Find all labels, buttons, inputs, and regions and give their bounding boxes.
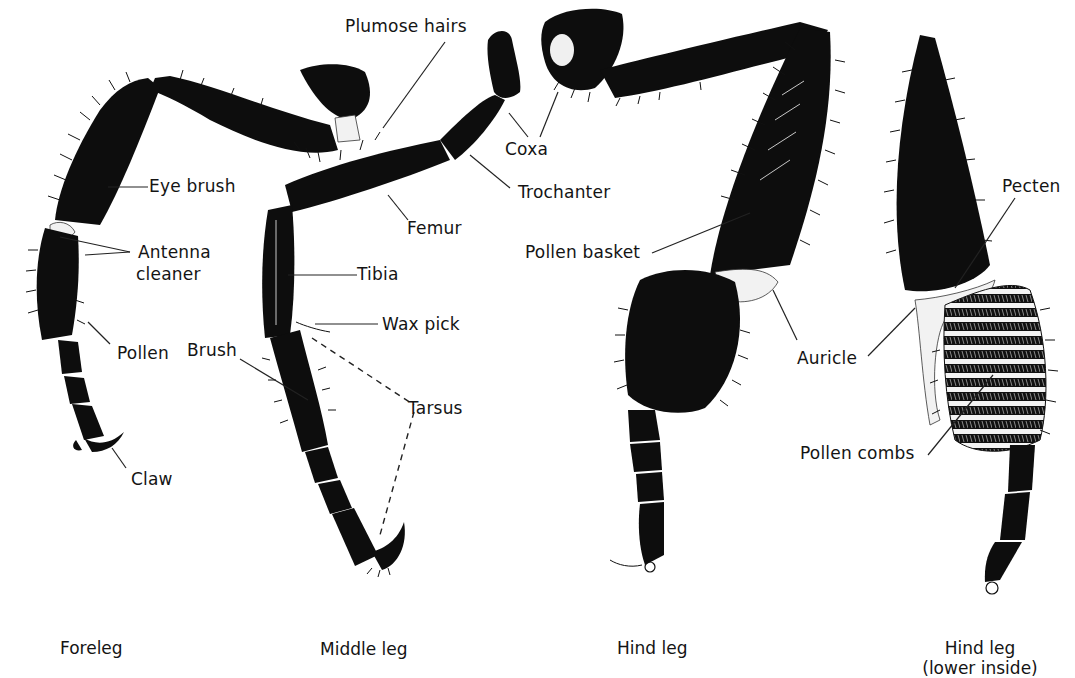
label-tibia: Tibia	[357, 265, 399, 284]
label-claw: Claw	[131, 470, 173, 489]
caption-hind-leg: Hind leg	[617, 638, 687, 658]
leg-illustrations	[0, 0, 1075, 678]
label-pollen-basket: Pollen basket	[525, 243, 640, 262]
caption-hind-leg-inside: Hind leg (lower inside)	[905, 638, 1055, 678]
label-pollen-combs: Pollen combs	[800, 444, 915, 463]
hind-leg-drawing	[541, 9, 845, 572]
label-coxa: Coxa	[505, 140, 548, 159]
label-plumose-hairs: Plumose hairs	[345, 17, 467, 36]
label-femur: Femur	[407, 219, 462, 238]
label-wax-pick: Wax pick	[382, 315, 460, 334]
label-antenna-cleaner-line2: cleaner	[136, 265, 201, 284]
caption-middle-leg: Middle leg	[320, 639, 408, 659]
bee-legs-diagram: Plumose hairs Coxa Trochanter Eye brush …	[0, 0, 1075, 678]
caption-hind-leg-inside-line2: (lower inside)	[905, 658, 1055, 678]
label-antenna-cleaner-line1: Antenna	[138, 243, 211, 262]
label-trochanter: Trochanter	[518, 183, 610, 202]
hind-leg-inside-drawing	[884, 35, 1058, 594]
middle-leg-drawing	[262, 31, 520, 577]
label-tarsus: Tarsus	[408, 399, 463, 418]
caption-foreleg: Foreleg	[60, 638, 123, 658]
label-eye-brush: Eye brush	[149, 177, 236, 196]
caption-hind-leg-inside-line1: Hind leg	[905, 638, 1055, 658]
label-auricle: Auricle	[797, 349, 857, 368]
label-pecten: Pecten	[1002, 177, 1061, 196]
label-pollen: Pollen	[117, 344, 169, 363]
label-brush: Brush	[187, 341, 237, 360]
